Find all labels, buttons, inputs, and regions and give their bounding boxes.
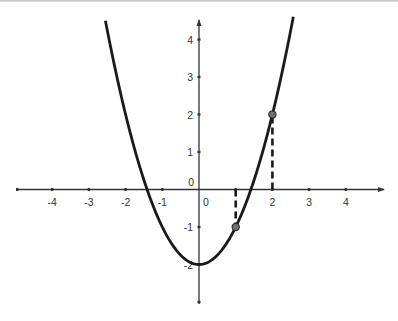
y-tick [198, 301, 201, 303]
y-tick-label: 4 [187, 34, 193, 46]
x-tick-label: -3 [84, 196, 93, 208]
x-tick [308, 188, 310, 191]
origin-y-label: 0 [188, 176, 194, 188]
x-tick-label: 2 [269, 196, 275, 208]
origin-x-label: 0 [203, 196, 209, 208]
data-point [232, 223, 239, 230]
y-tick [198, 113, 201, 115]
y-tick-label: -1 [184, 221, 193, 233]
y-tick [198, 226, 201, 228]
data-point [269, 111, 276, 118]
y-tick [198, 38, 201, 40]
x-tick [161, 188, 163, 191]
x-tick-label: 4 [343, 196, 349, 208]
x-tick-label: -1 [158, 196, 167, 208]
x-tick [51, 188, 53, 191]
y-tick-label: 2 [187, 109, 193, 121]
axis-ticks [16, 38, 347, 303]
x-tick [345, 188, 347, 191]
y-tick-label: 1 [187, 146, 193, 158]
x-tick-label: -4 [48, 196, 57, 208]
x-tick [88, 188, 90, 191]
x-axis-end-tick [16, 188, 19, 191]
x-tick [124, 188, 126, 191]
x-tick-label: -2 [121, 196, 130, 208]
x-tick-label: 3 [306, 196, 312, 208]
y-tick [198, 151, 201, 153]
y-tick-label: 3 [187, 71, 193, 83]
axes [17, 20, 384, 304]
y-tick [198, 76, 201, 78]
function-graph: -4-3-2-12344321-1-200 [0, 0, 398, 321]
